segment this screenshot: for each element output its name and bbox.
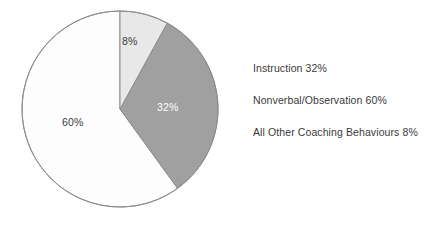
pie-slice-label-instruction: 32%: [157, 101, 179, 113]
pie-slice-label-all-other-coaching-behaviours: 8%: [122, 35, 138, 47]
pie-slice-label-nonverbal-observation: 60%: [62, 116, 84, 128]
pie-chart-figure: 8% 32% 60% Instruction 32% Nonverbal/Obs…: [0, 0, 436, 226]
legend-item-instruction: Instruction 32%: [253, 62, 433, 94]
legend-item-all-other-coaching-behaviours: All Other Coaching Behaviours 8%: [253, 126, 433, 158]
legend-item-nonverbal-observation: Nonverbal/Observation 60%: [253, 94, 433, 126]
chart-legend: Instruction 32% Nonverbal/Observation 60…: [253, 62, 433, 158]
